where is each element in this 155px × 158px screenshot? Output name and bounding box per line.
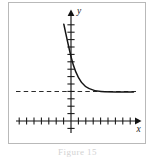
- y-axis-arrow-icon: [68, 10, 75, 17]
- exponential-decay-curve: [64, 24, 134, 92]
- y-axis-label: y: [76, 6, 82, 16]
- figure-caption: Figure 15: [0, 147, 155, 158]
- coordinate-plot: x y: [0, 0, 155, 158]
- x-axis-label: x: [136, 124, 142, 134]
- figure-container: x y Figure 15: [0, 0, 155, 158]
